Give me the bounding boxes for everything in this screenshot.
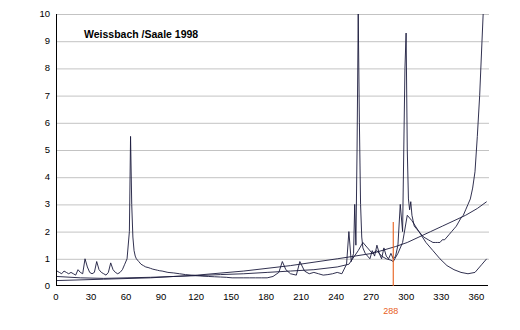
y-tick-label: 1: [28, 253, 50, 264]
x-tick-label: 360: [464, 291, 488, 302]
y-tick-label: 0: [28, 280, 50, 291]
x-tick-label: 300: [394, 291, 418, 302]
x-tick-label: 30: [79, 291, 103, 302]
annotation-label-288: 288: [383, 306, 398, 316]
chart-title: Weissbach /Saale 1998: [84, 28, 198, 40]
y-tick-label: 9: [28, 35, 50, 46]
x-tick-label: 270: [359, 291, 383, 302]
x-tick-label: 210: [289, 291, 313, 302]
x-tick-label: 90: [149, 291, 173, 302]
y-tick-label: 3: [28, 198, 50, 209]
x-tick-label: 120: [184, 291, 208, 302]
y-tick-label: 6: [28, 117, 50, 128]
plot-area: [56, 14, 488, 286]
x-tick-label: 180: [254, 291, 278, 302]
y-tick-label: 8: [28, 62, 50, 73]
chart-container: Q m³/s Weissbach /Saale 1998 288 0123456…: [0, 0, 520, 330]
annotation-marker: [57, 14, 489, 286]
y-tick-label: 4: [28, 171, 50, 182]
y-tick-label: 2: [28, 226, 50, 237]
x-tick-label: 150: [219, 291, 243, 302]
y-tick-label: 7: [28, 90, 50, 101]
y-tick-label: 10: [28, 8, 50, 19]
y-tick-label: 5: [28, 144, 50, 155]
x-tick-label: 60: [114, 291, 138, 302]
x-tick-label: 0: [44, 291, 68, 302]
x-tick-label: 330: [429, 291, 453, 302]
x-tick-label: 240: [324, 291, 348, 302]
